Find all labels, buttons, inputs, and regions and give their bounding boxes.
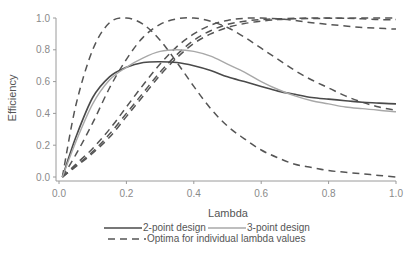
optima-dashed-line	[62, 18, 396, 177]
efficiency-line-chart: 0.00.20.40.60.81.00.00.20.40.60.81.0 Lam…	[0, 0, 413, 254]
x-tick-label: 0.0	[52, 188, 66, 199]
x-tick-label: 0.8	[322, 188, 336, 199]
optima-dashed-line	[62, 18, 396, 177]
x-tick-label: 0.6	[254, 188, 268, 199]
legend-label-3-point: 3-point design	[247, 222, 310, 233]
x-tick-label: 1.0	[389, 188, 403, 199]
optima-dashed-line	[62, 18, 396, 177]
three-point-design-line	[62, 50, 396, 177]
x-tick-label: 0.4	[187, 188, 201, 199]
legend: 2-point design 3-point design Optima for…	[104, 222, 310, 244]
y-tick-label: 0.4	[36, 108, 50, 119]
x-tick-label: 0.2	[119, 188, 133, 199]
two-point-design-line	[62, 62, 396, 177]
optima-dashed-line	[62, 18, 396, 177]
y-tick-label: 0.8	[36, 44, 50, 55]
y-tick-label: 1.0	[36, 13, 50, 24]
legend-label-2-point: 2-point design	[143, 222, 206, 233]
data-series	[62, 18, 396, 177]
y-tick-label: 0.6	[36, 76, 50, 87]
y-tick-label: 0.0	[36, 172, 50, 183]
legend-label-optima: Optima for individual lambda values	[147, 233, 305, 244]
y-axis-label: Efficiency	[6, 74, 18, 121]
optima-dashed-line	[62, 18, 396, 177]
x-axis-label: Lambda	[208, 207, 249, 219]
y-tick-label: 0.2	[36, 140, 50, 151]
